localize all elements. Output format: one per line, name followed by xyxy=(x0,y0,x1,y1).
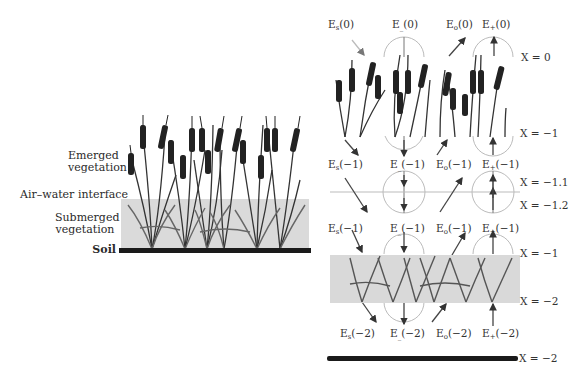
submerged-line2: vegetation xyxy=(55,224,115,236)
eo-m1b-label: Eo(−1) xyxy=(436,222,472,236)
eplus-m1b-label: E+(−1) xyxy=(482,222,519,236)
x-m1-1-label: X = −1.1 xyxy=(520,176,568,188)
x-m1-top-label: X = −1 xyxy=(520,127,558,139)
x-0-label: X = 0 xyxy=(521,51,551,63)
left-soil-bar xyxy=(119,248,311,253)
eo-m2-label: Eo(−2) xyxy=(436,327,472,341)
eminus-m2-label: E_(−2) xyxy=(390,327,425,341)
eplus-0-label: E+(0) xyxy=(482,18,510,32)
emerged-line2: vegetation xyxy=(68,162,118,174)
es-0-label: Es(0) xyxy=(328,18,354,32)
right-soil-bar xyxy=(327,356,518,361)
x-m1-bot-label: X = −1 xyxy=(520,247,558,259)
eplus-m2-label: E+(−2) xyxy=(482,327,519,341)
x-m2-soil-label: X = −2 xyxy=(519,352,557,364)
eo-m1a-label: Eo(−1) xyxy=(436,158,472,172)
eplus-m1a-label: E+(−1) xyxy=(482,158,519,172)
x-m2-label: X = −2 xyxy=(520,295,558,307)
eminus-m1a-label: E_(−1) xyxy=(390,158,425,172)
submerged-vegetation-label: Submerged vegetation xyxy=(55,212,115,236)
eo-0-label: Eo(0) xyxy=(446,18,473,32)
eminus-m1b-label: E_(−1) xyxy=(390,222,425,236)
eminus-0-label: E_(0) xyxy=(392,18,418,32)
left-cattail-heads xyxy=(128,125,300,179)
emerged-vegetation-label: Emerged vegetation xyxy=(68,150,118,174)
es-m1b-label: Es(−1) xyxy=(328,222,363,236)
right-top-plants xyxy=(336,55,506,137)
es-m2-label: Es(−2) xyxy=(340,327,375,341)
soil-label: Soil xyxy=(80,244,116,256)
air-water-interface-label: Air–water interface xyxy=(20,189,126,201)
x-m1-2-label: X = −1.2 xyxy=(520,199,568,211)
es-m1a-label: Es(−1) xyxy=(328,158,363,172)
